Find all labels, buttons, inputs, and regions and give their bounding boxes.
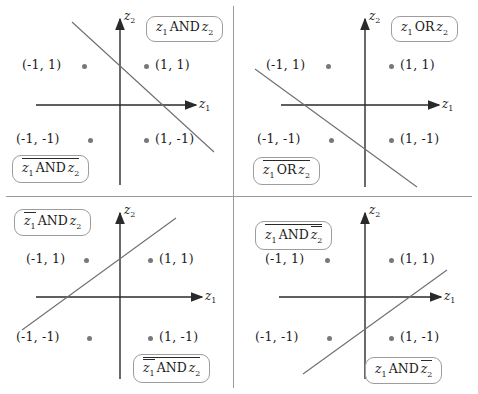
y-axis-label: z2 [124,9,135,25]
data-point [87,336,92,341]
logic-decision-boundary-figure: z1 z2 (-1, 1) (1, 1) (-1, -1) (1, -1) z1… [0,0,478,394]
point-label: (-1, -1) [255,329,299,344]
point-label: (-1, -1) [16,329,60,344]
data-point [148,336,153,341]
tag-overline-group: z1ANDz2 [143,357,200,379]
tag-term-z2: z2 [436,19,448,34]
tag-term-z2: z2 [421,361,433,376]
tag-overline-group: z1ANDz2 [22,158,79,179]
x-axis-label: z1 [442,97,453,113]
x-axis-label: z1 [199,97,210,113]
tag-term-z1: z1 [263,162,275,177]
tag-operator-or: OR [413,19,437,34]
tag-operator-or: OR [275,162,299,177]
tag-term-z1: z1 [375,361,387,376]
tag-term-z1: z1 [24,213,36,228]
tag-term-z1: z1 [265,227,277,242]
tag-overline-z1: z1 [143,359,155,379]
data-point [148,258,153,263]
point-label: (-1, -1) [257,131,301,146]
point-label: (1, 1) [400,251,435,266]
point-label: (-1, -1) [16,131,60,146]
region-tag-and-negative: z1ANDz2 [12,155,89,183]
y-axis-label: z2 [124,203,135,219]
tag-term-z2: z2 [68,160,80,175]
data-point [144,64,149,69]
point-label: (1, -1) [400,329,439,344]
region-tag-or-negative: z1ORz2 [253,157,320,185]
region-tag-or-positive: z1ORz2 [391,16,458,42]
data-point [389,336,394,341]
data-point [144,138,149,143]
data-point [84,258,89,263]
panel-and: z1 z2 (-1, 1) (1, 1) (-1, -1) (1, -1) z1… [0,0,239,197]
point-label: (-1, 1) [22,57,61,72]
tag-term-z2: z2 [311,227,323,242]
point-label: (1, -1) [155,131,194,146]
region-tag-notz1-and-z2-negative: z1ANDz2 [133,354,210,383]
x-axis-label: z1 [205,289,216,305]
tag-term-z2: z2 [202,19,214,34]
region-tag-z1-and-notz2-positive: z1ANDz2 [365,357,442,384]
y-axis-label: z2 [369,9,380,25]
data-point [325,258,330,263]
data-point [389,258,394,263]
tag-term-z1: z1 [22,160,34,175]
tag-operator-and: AND [387,361,421,376]
tag-overline-group: z1ANDz2 [265,224,322,246]
data-point [389,64,394,69]
data-point [327,336,332,341]
point-label: (1, -1) [400,131,439,146]
tag-term-z1: z1 [143,360,155,375]
tag-operator-and: AND [36,213,70,228]
point-label: (-1, 1) [265,251,304,266]
data-point [326,64,331,69]
data-point [389,138,394,143]
tag-overline-group: z1ORz2 [263,160,310,181]
tag-term-z2: z2 [70,213,82,228]
region-tag-notz1-and-z2-positive: z1ANDz2 [14,209,91,236]
point-label: (1, 1) [400,57,435,72]
y-axis-label: z2 [369,203,380,219]
tag-operator-and: AND [277,227,311,242]
point-label: (1, 1) [159,251,194,266]
tag-operator-and: AND [34,160,68,175]
tag-term-z1: z1 [401,19,413,34]
data-point [82,64,87,69]
data-point [329,138,334,143]
point-label: (1, 1) [155,57,190,72]
tag-overline-z2: z2 [421,360,433,380]
tag-operator-and: AND [155,360,189,375]
panel-or: z1 z2 (-1, 1) (1, 1) (-1, -1) (1, -1) z1… [239,0,478,197]
panel-notz1-and-z2: z1 z2 (-1, 1) (1, 1) (-1, -1) (1, -1) z1… [0,197,239,394]
tag-term-z1: z1 [156,19,168,34]
region-tag-and-positive: z1ANDz2 [146,16,223,42]
point-label: (1, -1) [159,329,198,344]
point-label: (-1, 1) [26,251,65,266]
x-axis-label: z1 [444,289,455,305]
point-label: (-1, 1) [266,57,305,72]
region-tag-z1-and-notz2-negative: z1ANDz2 [255,221,332,250]
tag-term-z2: z2 [189,360,201,375]
panel-z1-and-notz2: z1 z2 (-1, 1) (1, 1) (-1, -1) (1, -1) z1… [239,197,478,394]
tag-overline-z2: z2 [311,226,323,246]
tag-operator-and: AND [168,19,202,34]
tag-overline-z1: z1 [24,212,36,232]
tag-term-z2: z2 [298,162,310,177]
data-point [88,138,93,143]
